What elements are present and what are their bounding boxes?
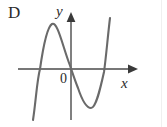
choice-label: D xyxy=(8,4,21,21)
x-axis-arrowhead xyxy=(128,65,138,74)
right-edge-artifact xyxy=(161,0,162,127)
graph-figure: D y x 0 xyxy=(0,0,167,127)
y-axis-arrowhead xyxy=(67,12,76,22)
y-axis-label: y xyxy=(56,4,63,19)
graph-canvas xyxy=(0,0,167,127)
x-axis-label: x xyxy=(121,76,128,91)
origin-label: 0 xyxy=(60,72,67,86)
